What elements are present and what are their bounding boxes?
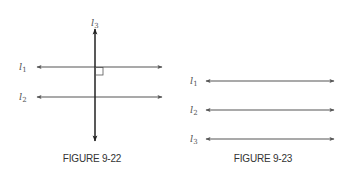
caption-figure-9-22: FIGURE 9-22	[63, 153, 122, 164]
caption-figure-9-23: FIGURE 9-23	[234, 153, 293, 164]
label-l1: l1	[19, 61, 27, 74]
diagram-canvas: l3 l1 l2 FIGURE 9-22 l1 l2 l3 FIGURE 9-2…	[0, 0, 351, 183]
label-l3: l3	[190, 133, 198, 146]
label-l2: l2	[19, 91, 27, 104]
right-angle-marker	[96, 68, 104, 76]
label-l3: l3	[91, 17, 99, 30]
figure-9-23: l1 l2 l3 FIGURE 9-23	[190, 75, 334, 164]
label-l2: l2	[190, 104, 198, 117]
figure-9-22: l3 l1 l2 FIGURE 9-22	[19, 17, 162, 164]
label-l1: l1	[190, 75, 198, 88]
